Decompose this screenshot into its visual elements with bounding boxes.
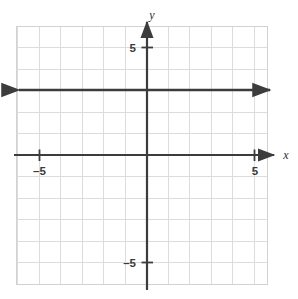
y-axis-label-negative-5: –5 (123, 257, 136, 269)
x-axis-name: x (282, 148, 289, 162)
x-axis-label-negative-5: –5 (33, 165, 46, 177)
x-axis-label-positive-5: 5 (252, 165, 259, 177)
coordinate-plane-figure: –5 5 5 –5 x y (0, 0, 298, 299)
coordinate-plane-svg: –5 5 5 –5 x y (0, 0, 298, 299)
y-axis-name: y (148, 8, 155, 22)
y-axis-label-positive-5: 5 (130, 42, 137, 54)
